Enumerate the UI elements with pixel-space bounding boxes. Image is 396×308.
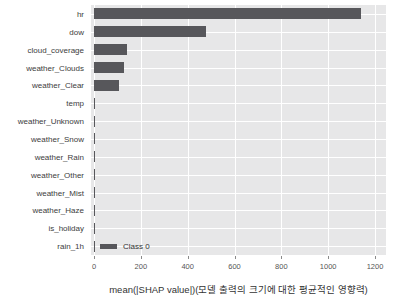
y-tick-label: rain_1h <box>57 242 84 251</box>
gridline-horizontal <box>91 121 386 122</box>
x-tick-label: 400 <box>181 262 194 271</box>
bar-cloud_coverage <box>94 44 127 55</box>
y-tick-label: hr <box>77 9 84 18</box>
x-tick-mark <box>328 256 329 259</box>
gridline-vertical <box>375 5 376 255</box>
legend-label: Class 0 <box>123 242 150 251</box>
x-tick-mark <box>235 256 236 259</box>
bar-weather_Unknown <box>94 116 95 127</box>
gridline-vertical <box>328 5 329 255</box>
bar-weather_Clouds <box>94 62 124 73</box>
plot-area: Class 0 <box>91 5 386 255</box>
y-tick-label: weather_Mist <box>36 188 84 197</box>
gridline-horizontal <box>91 103 386 104</box>
bar-weather_Clear <box>94 80 119 91</box>
gridline-vertical <box>188 5 189 255</box>
y-tick-label: cloud_coverage <box>28 45 84 54</box>
bar-dow <box>94 26 206 37</box>
y-tick-label: dow <box>69 27 84 36</box>
gridline-horizontal <box>91 85 386 86</box>
legend-swatch-class-0 <box>100 244 117 249</box>
x-tick-mark <box>375 256 376 259</box>
y-tick-label: weather_Rain <box>35 152 84 161</box>
x-tick-label: 1200 <box>367 262 384 271</box>
x-tick-label: 200 <box>135 262 148 271</box>
x-tick-mark <box>94 256 95 259</box>
gridline-vertical <box>141 5 142 255</box>
y-axis-labels: hrdowcloud_coverageweather_Cloudsweather… <box>0 5 88 255</box>
x-axis-label: mean(|SHAP value|)(모델 출력의 크기에 대한 평균적인 영향… <box>91 282 386 296</box>
x-tick-mark <box>141 256 142 259</box>
gridline-horizontal <box>91 50 386 51</box>
gridline-horizontal <box>91 157 386 158</box>
gridline-horizontal <box>91 228 386 229</box>
x-tick-mark <box>281 256 282 259</box>
gridline-horizontal <box>91 210 386 211</box>
bar-temp <box>94 98 95 109</box>
gridline-horizontal <box>91 139 386 140</box>
legend: Class 0 <box>100 242 150 251</box>
gridline-horizontal <box>91 175 386 176</box>
y-tick-label: weather_Other <box>31 170 84 179</box>
x-tick-mark <box>188 256 189 259</box>
x-axis-ticks: 020040060080010001200 <box>91 255 386 277</box>
x-tick-label: 600 <box>228 262 241 271</box>
x-tick-label: 0 <box>92 262 96 271</box>
bar-hr <box>94 8 361 19</box>
shap-feature-importance-chart: hrdowcloud_coverageweather_Cloudsweather… <box>0 0 396 308</box>
gridline-vertical <box>235 5 236 255</box>
y-tick-label: weather_Snow <box>31 134 84 143</box>
x-tick-label: 800 <box>275 262 288 271</box>
y-tick-label: temp <box>66 99 84 108</box>
y-tick-label: is_holiday <box>48 224 84 233</box>
y-tick-label: weather_Clear <box>32 81 84 90</box>
x-tick-label: 1000 <box>320 262 337 271</box>
gridline-horizontal <box>91 193 386 194</box>
gridline-horizontal <box>91 68 386 69</box>
y-tick-label: weather_Clouds <box>26 63 84 72</box>
y-tick-label: weather_Unknown <box>18 117 84 126</box>
y-tick-label: weather_Haze <box>32 206 84 215</box>
gridline-vertical <box>94 5 95 255</box>
gridline-vertical <box>281 5 282 255</box>
